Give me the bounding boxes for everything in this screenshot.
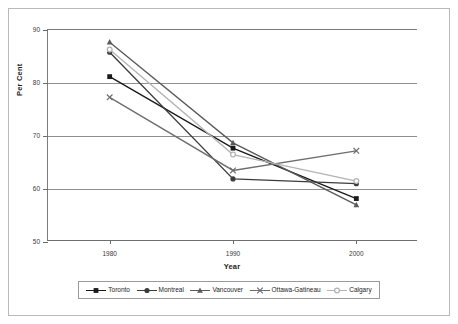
- legend-marker-icon: [137, 286, 157, 295]
- data-point-marker: [107, 39, 113, 44]
- data-point-marker: [107, 95, 113, 101]
- y-tick-label: 80: [14, 80, 40, 87]
- legend-marker-icon: [190, 286, 210, 295]
- series-ottawa-gatineau: [107, 95, 359, 174]
- legend-marker-icon: [86, 286, 106, 295]
- data-point-marker: [335, 288, 340, 293]
- data-point-marker: [197, 287, 203, 292]
- legend-item-label: Ottawa-Gatineau: [272, 287, 321, 294]
- series-line: [110, 97, 357, 170]
- y-tick-label: 90: [14, 27, 40, 34]
- chart-figure: Per Cent 5060708090 198019902000 Year To…: [0, 0, 458, 324]
- data-point-marker: [354, 179, 359, 184]
- x-tick-label: 2000: [336, 251, 376, 258]
- chart-legend: TorontoMontrealVancouverOttawa-GatineauC…: [78, 281, 380, 299]
- data-point-marker: [231, 146, 236, 151]
- data-point-marker: [107, 74, 112, 79]
- legend-item-label: Calgary: [349, 287, 371, 294]
- legend-item-ottawa-gatineau[interactable]: Ottawa-Gatineau: [250, 286, 321, 295]
- data-point-marker: [257, 287, 263, 293]
- legend-item-label: Vancouver: [212, 287, 243, 294]
- legend-item-label: Montreal: [159, 287, 184, 294]
- y-tick-mark: [43, 242, 48, 243]
- plot-area: 5060708090 198019902000: [47, 29, 417, 241]
- legend-marker-icon: [250, 286, 270, 295]
- legend-item-montreal[interactable]: Montreal: [137, 286, 184, 295]
- y-tick-label: 60: [14, 186, 40, 193]
- data-point-marker: [230, 176, 235, 181]
- y-tick-label: 70: [14, 133, 40, 140]
- x-axis-title: Year: [47, 262, 417, 271]
- legend-item-vancouver[interactable]: Vancouver: [190, 286, 243, 295]
- series-line: [110, 50, 357, 181]
- legend-marker-icon: [327, 286, 347, 295]
- legend-item-toronto[interactable]: Toronto: [86, 286, 130, 295]
- series-layer: [48, 30, 418, 242]
- legend-item-calgary[interactable]: Calgary: [327, 286, 371, 295]
- data-point-marker: [231, 152, 236, 157]
- series-calgary: [107, 47, 358, 183]
- x-tick-label: 1990: [213, 251, 253, 258]
- data-point-marker: [144, 287, 149, 292]
- y-tick-label: 50: [14, 239, 40, 246]
- data-point-marker: [94, 288, 99, 293]
- x-tick-label: 1980: [90, 251, 130, 258]
- legend-item-label: Toronto: [108, 287, 130, 294]
- data-point-marker: [354, 196, 359, 201]
- data-point-marker: [107, 47, 112, 52]
